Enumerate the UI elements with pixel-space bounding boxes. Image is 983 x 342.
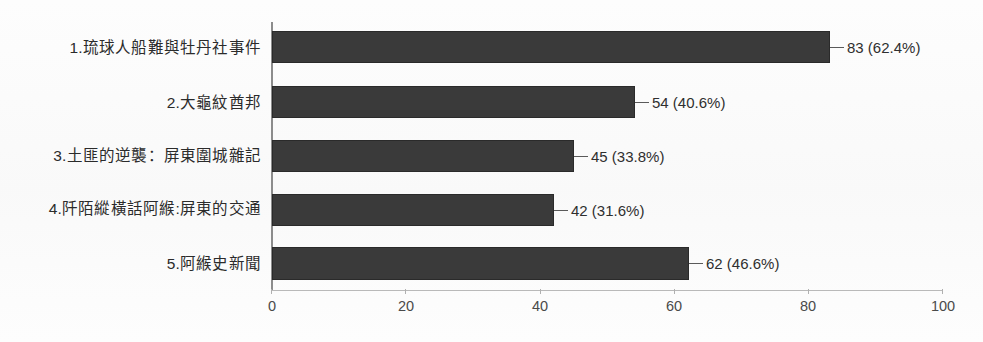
bar-5 — [272, 247, 689, 280]
category-label-2: 2.大龜紋酋邦 — [0, 95, 271, 111]
bar-1 — [272, 31, 830, 63]
leader-line-5 — [689, 263, 703, 264]
bar-2 — [272, 86, 635, 118]
category-label-5: 5.阿緱史新聞 — [0, 256, 271, 272]
leader-line-1 — [830, 47, 844, 48]
value-label-5: 62 (46.6%) — [706, 256, 779, 271]
x-tick-mark-20 — [405, 289, 406, 294]
x-tick-mark-60 — [674, 289, 675, 294]
category-axis-labels: 1.琉球人船難與牡丹社事件 2.大龜紋酋邦 3.土匪的逆襲：屏東圍城雜記 4.阡… — [0, 0, 271, 342]
x-tick-label-40: 40 — [532, 298, 548, 314]
leader-line-4 — [554, 210, 568, 211]
leader-line-3 — [574, 156, 588, 157]
category-label-3: 3.土匪的逆襲：屏東圍城雜記 — [0, 148, 271, 164]
value-label-1: 83 (62.4%) — [847, 40, 920, 55]
x-tick-label-0: 0 — [268, 298, 276, 314]
category-label-1: 1.琉球人船難與牡丹社事件 — [0, 40, 271, 56]
x-tick-mark-40 — [540, 289, 541, 294]
x-tick-mark-0 — [271, 289, 272, 294]
x-tick-mark-100 — [942, 289, 943, 294]
value-label-3: 45 (33.8%) — [591, 149, 664, 164]
x-tick-label-100: 100 — [931, 298, 955, 314]
horizontal-bar-chart: 1.琉球人船難與牡丹社事件 2.大龜紋酋邦 3.土匪的逆襲：屏東圍城雜記 4.阡… — [0, 0, 983, 342]
value-label-2: 54 (40.6%) — [652, 95, 725, 110]
x-tick-label-20: 20 — [398, 298, 414, 314]
x-tick-label-60: 60 — [666, 298, 682, 314]
bar-4 — [272, 194, 554, 226]
x-tick-label-80: 80 — [800, 298, 816, 314]
x-tick-mark-80 — [808, 289, 809, 294]
value-label-4: 42 (31.6%) — [571, 203, 644, 218]
leader-line-2 — [635, 102, 649, 103]
x-axis-line — [271, 290, 943, 291]
bar-3 — [272, 140, 574, 172]
category-label-4: 4.阡陌縱橫話阿緱:屏東的交通 — [0, 201, 271, 217]
